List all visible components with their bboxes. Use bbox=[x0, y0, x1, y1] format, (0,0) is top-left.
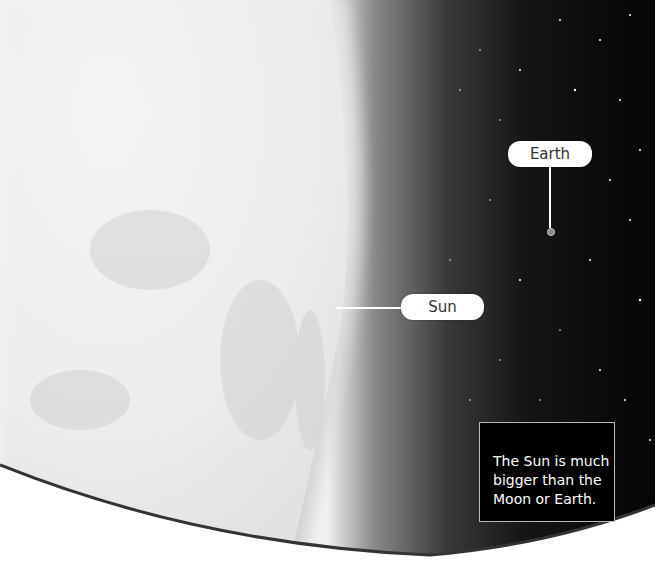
sun-earth-illustration: Earth Sun The Sun is much bigger than th… bbox=[0, 0, 655, 563]
sun-leader-line bbox=[336, 307, 404, 309]
sun-label: Sun bbox=[401, 294, 484, 320]
caption-line-3: Moon or Earth. bbox=[493, 490, 614, 509]
earth-leader-line bbox=[549, 166, 551, 228]
earth-label: Earth bbox=[508, 141, 592, 167]
caption-box: The Sun is much bigger than the Moon or … bbox=[479, 422, 615, 522]
caption-line-2: bigger than the bbox=[493, 471, 614, 490]
caption-line-1: The Sun is much bbox=[493, 452, 614, 471]
